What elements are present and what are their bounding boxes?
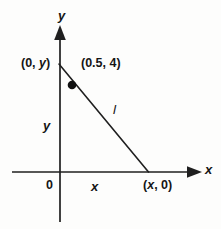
x-axis-arrowhead [187,166,202,178]
y-axis-arrowhead [54,25,66,40]
coordinate-plane-graphic [0,0,221,229]
y-axis-label: y [58,9,65,22]
origin-label: 0 [46,179,53,192]
figure-canvas: y (0, y) (0.5, 4) y l 0 x (x, 0) x [0,0,221,229]
marked-point-dot [68,81,77,90]
x-axis-label: x [205,163,212,176]
y-intercept-point-label: (0, y) [21,57,50,70]
y-leg-length-label: y [43,119,50,132]
line-l-segment [59,64,149,172]
x-intercept-point-label: (x, 0) [143,179,172,192]
marked-point-label: (0.5, 4) [81,57,121,70]
line-l-label: l [113,103,116,117]
x-leg-length-label: x [91,180,98,193]
